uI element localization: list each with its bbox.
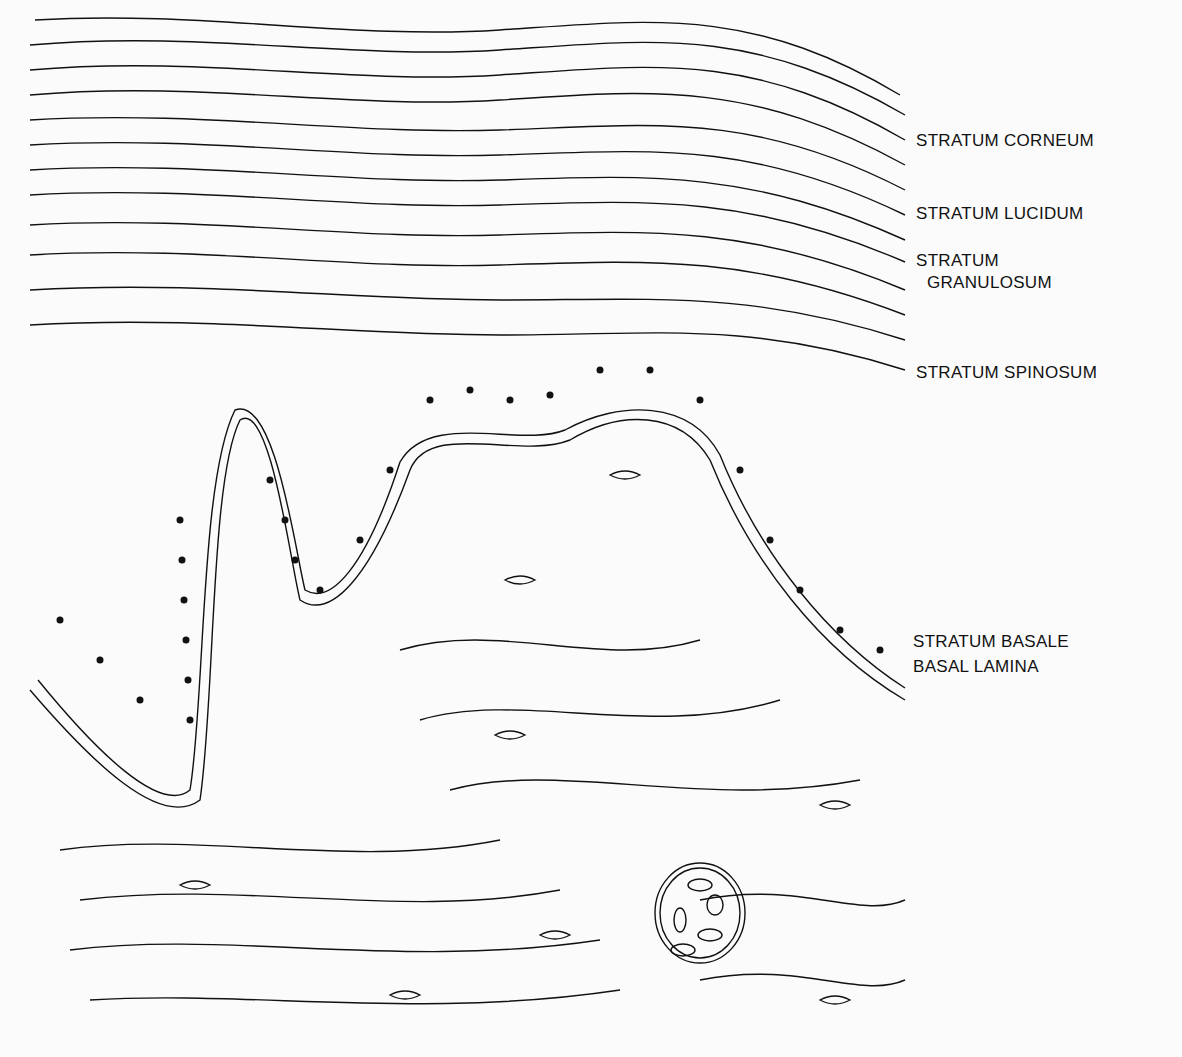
skin-layers-figure: STRATUM CORNEUM STRATUM LUCIDUM STRATUM … (0, 0, 1182, 1057)
stratum-corneum-lines (30, 18, 905, 262)
dermis-fibers (60, 640, 905, 1004)
label-stratum-granulosum-line2: GRANULOSUM (927, 272, 1052, 294)
fibroblasts (180, 471, 850, 1004)
label-stratum-corneum: STRATUM CORNEUM (916, 130, 1094, 152)
stratum-granulosum-lines (30, 223, 905, 370)
basal-lamina (30, 418, 905, 807)
skin-cross-section-drawing (0, 0, 1182, 1057)
label-stratum-lucidum: STRATUM LUCIDUM (916, 203, 1084, 225)
label-stratum-basale: STRATUM BASALE (913, 631, 1069, 653)
label-stratum-spinosum: STRATUM SPINOSUM (916, 362, 1097, 384)
label-basal-lamina: BASAL LAMINA (913, 656, 1039, 678)
capillary (655, 863, 745, 963)
stratum-basale-cells (57, 367, 884, 724)
label-stratum-granulosum-line1: STRATUM (916, 250, 999, 272)
